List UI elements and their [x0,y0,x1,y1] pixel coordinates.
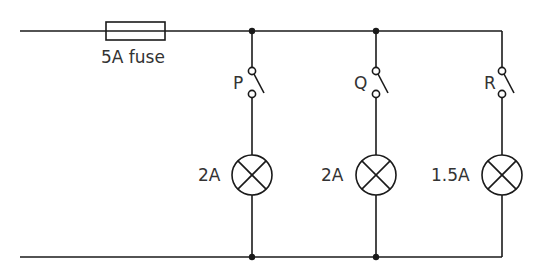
lamp-label-p: 2A [198,165,221,185]
switch-contact [372,90,379,97]
switch-contact [248,90,255,97]
lamp-label-q: 2A [321,165,344,185]
switch-contact [498,90,505,97]
switch-q [378,74,388,93]
switch-r [504,74,514,93]
lamp-label-r: 1.5A [431,165,470,185]
switch-contact [248,67,255,74]
fuse-label: 5A fuse [101,47,165,67]
switch-label-q: Q [354,73,367,93]
switch-label-p: P [233,73,243,93]
branch-r: R 1.5A [431,31,522,257]
branch-p: P 2A [198,31,272,257]
circuit-diagram: 5A fuse P 2A Q 2A [0,0,542,278]
branch-q: Q 2A [321,31,396,257]
switch-contact [372,67,379,74]
switch-p [254,74,264,93]
switch-contact [498,67,505,74]
switch-label-r: R [484,73,496,93]
